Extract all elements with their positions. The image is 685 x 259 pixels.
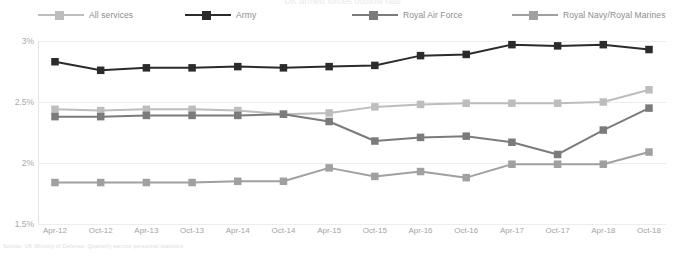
data-point-marker[interactable] (280, 64, 288, 72)
series-royal-navy-royal-marines (51, 148, 653, 186)
y-axis-tick-label: 3% (0, 36, 34, 46)
data-point-marker[interactable] (554, 160, 562, 168)
data-point-marker[interactable] (371, 103, 379, 111)
data-point-marker[interactable] (645, 86, 653, 94)
legend-marker-icon (352, 9, 398, 21)
data-point-marker[interactable] (645, 104, 653, 112)
data-point-marker[interactable] (508, 160, 516, 168)
data-point-marker[interactable] (554, 42, 562, 50)
legend-marker-icon (38, 9, 84, 21)
data-point-marker[interactable] (97, 113, 105, 121)
data-point-marker[interactable] (188, 112, 196, 120)
data-point-marker[interactable] (462, 99, 470, 107)
x-axis-tick-label: Oct-18 (620, 226, 678, 235)
data-point-marker[interactable] (143, 64, 151, 72)
data-point-marker[interactable] (417, 52, 425, 60)
legend-item-label: All services (89, 10, 133, 20)
data-point-marker[interactable] (554, 99, 562, 107)
series-all-services (51, 86, 653, 118)
legend-item-army[interactable]: Army (185, 6, 256, 24)
gridline (38, 224, 666, 225)
source-note: Source: UK Ministry of Defence, Quarterl… (3, 243, 183, 249)
data-point-marker[interactable] (462, 174, 470, 182)
data-point-marker[interactable] (508, 139, 516, 147)
legend-marker-icon (185, 9, 231, 21)
data-point-marker[interactable] (325, 109, 333, 117)
legend-item-royal-navy-royal-marines[interactable]: Royal Navy/Royal Marines (512, 6, 666, 24)
series-layer (38, 41, 666, 224)
data-point-marker[interactable] (600, 126, 608, 134)
data-point-marker[interactable] (508, 99, 516, 107)
data-point-marker[interactable] (462, 51, 470, 59)
data-point-marker[interactable] (51, 58, 59, 66)
data-point-marker[interactable] (417, 168, 425, 176)
data-point-marker[interactable] (188, 64, 196, 72)
legend-item-label: Royal Navy/Royal Marines (563, 10, 666, 20)
outflow-rate-chart: UK armed forces outflow rate All service… (0, 0, 685, 259)
data-point-marker[interactable] (325, 164, 333, 172)
data-point-marker[interactable] (600, 41, 608, 49)
series-army (51, 41, 653, 74)
data-point-marker[interactable] (97, 67, 105, 75)
data-point-marker[interactable] (280, 110, 288, 118)
data-point-marker[interactable] (325, 63, 333, 71)
series-royal-air-force (51, 104, 653, 158)
data-point-marker[interactable] (600, 160, 608, 168)
data-point-marker[interactable] (371, 137, 379, 145)
data-point-marker[interactable] (280, 178, 288, 186)
legend-item-royal-air-force[interactable]: Royal Air Force (352, 6, 463, 24)
data-point-marker[interactable] (462, 132, 470, 140)
data-point-marker[interactable] (143, 112, 151, 120)
data-point-marker[interactable] (645, 46, 653, 54)
legend-marker-icon (512, 9, 558, 21)
legend-item-all-services[interactable]: All services (38, 6, 133, 24)
data-point-marker[interactable] (51, 106, 59, 114)
plot-area (38, 41, 666, 224)
data-point-marker[interactable] (554, 151, 562, 159)
data-point-marker[interactable] (143, 179, 151, 187)
y-axis-tick-label: 2% (0, 158, 34, 168)
legend-item-label: Royal Air Force (403, 10, 463, 20)
data-point-marker[interactable] (234, 63, 242, 71)
y-axis-tick-label: 2.5% (0, 97, 34, 107)
data-point-marker[interactable] (188, 179, 196, 187)
chart-title: UK armed forces outflow rate (0, 0, 685, 4)
data-point-marker[interactable] (97, 179, 105, 187)
chart-legend: All servicesArmyRoyal Air ForceRoyal Nav… (0, 6, 685, 26)
data-point-marker[interactable] (371, 62, 379, 70)
data-point-marker[interactable] (417, 134, 425, 142)
data-point-marker[interactable] (600, 98, 608, 106)
data-point-marker[interactable] (234, 178, 242, 186)
legend-item-label: Army (236, 10, 256, 20)
data-point-marker[interactable] (51, 179, 59, 187)
data-point-marker[interactable] (417, 101, 425, 109)
data-point-marker[interactable] (371, 173, 379, 181)
data-point-marker[interactable] (51, 113, 59, 121)
data-point-marker[interactable] (508, 41, 516, 49)
data-point-marker[interactable] (234, 112, 242, 120)
data-point-marker[interactable] (325, 118, 333, 126)
data-point-marker[interactable] (645, 148, 653, 156)
